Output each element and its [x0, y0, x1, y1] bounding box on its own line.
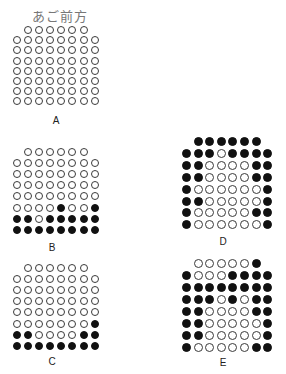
open-circle-icon [13, 320, 21, 328]
open-circle-icon [68, 204, 76, 212]
open-circle-icon [46, 192, 54, 200]
open-circle-icon [24, 148, 32, 156]
open-circle-icon [13, 286, 21, 294]
filled-circle-icon [263, 307, 272, 316]
figure-title: あご前方 [30, 6, 90, 25]
open-circle-icon [80, 67, 88, 75]
open-circle-icon [46, 46, 54, 54]
filled-circle-icon [263, 173, 272, 182]
open-circle-icon [68, 275, 76, 283]
filled-circle-icon [194, 173, 203, 182]
dot-row [13, 204, 99, 213]
open-circle-icon [217, 307, 226, 316]
open-circle-icon [24, 192, 32, 200]
filled-circle-icon [46, 226, 54, 234]
filled-circle-icon [57, 215, 65, 223]
open-circle-icon [46, 275, 54, 283]
open-circle-icon [194, 259, 203, 268]
open-circle-icon [217, 319, 226, 328]
filled-circle-icon [24, 215, 32, 223]
open-circle-icon [91, 46, 99, 54]
dot-row [13, 97, 99, 106]
open-circle-icon [46, 87, 54, 95]
filled-circle-icon [205, 149, 214, 158]
open-circle-icon [57, 181, 65, 189]
open-circle-icon [68, 148, 76, 156]
open-circle-icon [194, 220, 203, 229]
dot-row [13, 297, 99, 306]
open-circle-icon [24, 320, 32, 328]
filled-circle-icon [182, 197, 191, 206]
open-circle-icon [57, 26, 65, 34]
open-circle-icon [217, 197, 226, 206]
open-circle-icon [228, 197, 237, 206]
open-circle-icon [80, 36, 88, 44]
open-circle-icon [46, 67, 54, 75]
open-circle-icon [13, 46, 21, 54]
open-circle-icon [228, 259, 237, 268]
open-circle-icon [35, 97, 43, 105]
open-circle-icon [240, 208, 249, 217]
dot-row [13, 342, 99, 351]
filled-circle-icon [252, 259, 261, 268]
open-circle-icon [24, 204, 32, 212]
open-circle-icon [91, 192, 99, 200]
open-circle-icon [13, 181, 21, 189]
open-circle-icon [46, 204, 54, 212]
open-circle-icon [13, 204, 21, 212]
dot-row [182, 173, 272, 182]
open-circle-icon [217, 161, 226, 170]
open-circle-icon [57, 297, 65, 305]
open-circle-icon [240, 161, 249, 170]
filled-circle-icon [35, 342, 43, 350]
filled-circle-icon [13, 215, 21, 223]
open-circle-icon [35, 308, 43, 316]
dot-row [13, 46, 99, 55]
open-circle-icon [91, 308, 99, 316]
filled-circle-icon [228, 295, 237, 304]
open-circle-icon [252, 319, 261, 328]
open-circle-icon [57, 308, 65, 316]
open-circle-icon [57, 320, 65, 328]
filled-circle-icon [252, 343, 261, 352]
open-circle-icon [35, 67, 43, 75]
dot-row [13, 159, 99, 168]
open-circle-icon [13, 159, 21, 167]
open-circle-icon [80, 297, 88, 305]
dot-row [182, 343, 272, 352]
open-circle-icon [240, 331, 249, 340]
open-circle-icon [80, 181, 88, 189]
open-circle-icon [217, 259, 226, 268]
open-circle-icon [91, 286, 99, 294]
open-circle-icon [205, 307, 214, 316]
dot-row [13, 275, 99, 284]
dot-row [182, 295, 272, 304]
dot-row [182, 283, 272, 292]
open-circle-icon [57, 275, 65, 283]
open-circle-icon [35, 286, 43, 294]
dot-row [182, 220, 272, 229]
open-circle-icon [46, 97, 54, 105]
open-circle-icon [68, 192, 76, 200]
filled-circle-icon [263, 343, 272, 352]
open-circle-icon [46, 308, 54, 316]
filled-circle-icon [263, 283, 272, 292]
filled-circle-icon [205, 295, 214, 304]
filled-circle-icon [263, 295, 272, 304]
open-circle-icon [24, 87, 32, 95]
open-circle-icon [57, 67, 65, 75]
open-circle-icon [80, 286, 88, 294]
open-circle-icon [35, 170, 43, 178]
open-circle-icon [91, 181, 99, 189]
filled-circle-icon [80, 342, 88, 350]
open-circle-icon [46, 26, 54, 34]
open-circle-icon [13, 170, 21, 178]
filled-circle-icon [252, 307, 261, 316]
grid-label-a: A [46, 115, 66, 126]
open-circle-icon [13, 36, 21, 44]
open-circle-icon [205, 271, 214, 280]
filled-circle-icon [252, 149, 261, 158]
open-circle-icon [228, 343, 237, 352]
open-circle-icon [46, 57, 54, 65]
open-circle-icon [205, 331, 214, 340]
